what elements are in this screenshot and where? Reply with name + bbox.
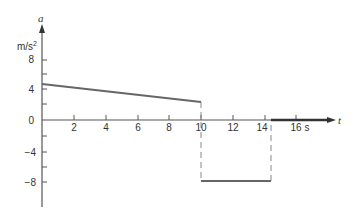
- x-tick-label-16: 16 s: [291, 122, 310, 133]
- x-tick-label-10: 10: [195, 122, 207, 133]
- x-tick-label-6: 6: [135, 122, 141, 133]
- y-tick-label-8: 8: [28, 54, 34, 65]
- y-tick-label-0: 0: [28, 115, 34, 126]
- y-axis-label: a: [38, 12, 44, 24]
- x-tick-label-8: 8: [166, 122, 172, 133]
- y-tick-label-4: 4: [28, 84, 34, 95]
- y-unit-label: m/s2: [17, 40, 37, 52]
- acceleration-time-chart: a m/s2 8 4 0 −4 −8 2 4 6 8 10 12 14 16 s…: [0, 0, 356, 212]
- y-tick-label-neg8: −8: [25, 177, 37, 188]
- x-tick-label-12: 12: [227, 122, 239, 133]
- x-ticks: [74, 115, 296, 120]
- y-ticks: [42, 60, 47, 182]
- x-tick-label-4: 4: [103, 122, 109, 133]
- y-axis-arrow-icon: [39, 24, 45, 33]
- x-tick-label-14: 14: [256, 122, 268, 133]
- y-tick-label-neg4: −4: [25, 147, 37, 158]
- x-axis-label: t: [338, 114, 342, 126]
- segment-1-line: [42, 84, 201, 102]
- x-tick-label-2: 2: [71, 122, 77, 133]
